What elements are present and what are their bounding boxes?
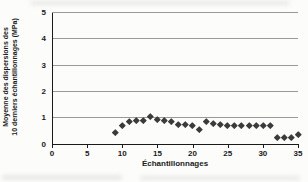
data-point-marker (217, 121, 223, 127)
data-point-marker (189, 122, 195, 128)
data-point-marker (210, 120, 216, 126)
gridline-y3 (52, 65, 298, 66)
data-point-marker (224, 122, 230, 128)
y-axis-line (52, 13, 53, 145)
scatter-chart-figure: Moyenne des dispersions des 10 derniers … (0, 0, 308, 182)
gridline-y4 (52, 38, 298, 39)
data-point-marker (119, 122, 125, 128)
x-tick-label-20: 20 (185, 149, 201, 158)
scan-smudge-bottom-right (140, 176, 300, 180)
scan-smudge-top (30, 1, 290, 5)
gridline-y1 (52, 117, 298, 118)
x-tick-30 (263, 145, 264, 148)
data-point-marker (175, 121, 181, 127)
x-tick-10 (122, 145, 123, 148)
data-point-marker (112, 129, 118, 135)
data-point-marker (239, 122, 245, 128)
data-point-marker (288, 134, 294, 140)
x-tick-label-35: 35 (290, 149, 306, 158)
x-tick-label-25: 25 (220, 149, 236, 158)
x-axis-title: Échantillonnages (115, 159, 235, 168)
y-tick-label-5: 5 (30, 8, 46, 17)
data-point-marker (246, 122, 252, 128)
y-axis-title: Moyenne des dispersions des 10 derniers … (2, 2, 20, 152)
x-tick-20 (193, 145, 194, 148)
x-tick-label-10: 10 (114, 149, 130, 158)
y-tick-label-4: 4 (30, 34, 46, 43)
data-point-marker (231, 122, 237, 128)
y-axis-title-line2: 10 derniers échantillonnages (MPa) (11, 18, 18, 135)
gridline-y5 (52, 12, 298, 13)
data-point-marker (126, 118, 132, 124)
x-tick-label-15: 15 (149, 149, 165, 158)
data-point-marker (203, 118, 209, 124)
data-point-marker (196, 126, 202, 132)
y-tick-label-2: 2 (30, 87, 46, 96)
y-axis-title-line1: Moyenne des dispersions des (2, 27, 9, 127)
scan-smudge-bottom-left (2, 175, 122, 180)
data-point-marker (182, 121, 188, 127)
x-tick-0 (52, 145, 53, 148)
y-tick-label-0: 0 (30, 140, 46, 149)
x-tick-label-5: 5 (79, 149, 95, 158)
x-tick-label-30: 30 (255, 149, 271, 158)
x-tick-15 (157, 145, 158, 148)
x-tick-label-0: 0 (44, 149, 60, 158)
x-tick-35 (298, 145, 299, 148)
gridline-y2 (52, 91, 298, 92)
data-point-marker (281, 134, 287, 140)
data-point-marker (147, 113, 153, 119)
data-point-marker (267, 122, 273, 128)
data-point-marker (260, 122, 266, 128)
x-tick-5 (87, 145, 88, 148)
y-tick-label-3: 3 (30, 61, 46, 70)
x-tick-25 (228, 145, 229, 148)
data-point-marker (295, 132, 301, 138)
data-point-marker (274, 134, 280, 140)
y-tick-label-1: 1 (30, 113, 46, 122)
data-point-marker (253, 122, 259, 128)
